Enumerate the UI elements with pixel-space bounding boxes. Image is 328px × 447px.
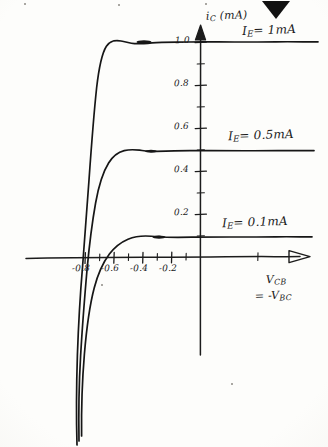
x-tick-label-minus-0-2: -0.2 xyxy=(159,264,177,273)
curve-label-value: = 0.5mA xyxy=(239,127,294,143)
y-axis-title: iC (mA) xyxy=(206,9,248,23)
y-tick-label-1-0: 1.0 xyxy=(175,36,190,45)
x-axis-title-line2: = -VBC xyxy=(255,289,292,303)
curve-label-ie-0-5ma: IE= 0.5mA xyxy=(228,128,294,144)
x-axis xyxy=(26,257,300,259)
x-tick-label-minus-0-8: -0.8 xyxy=(72,264,90,273)
curve-label-value: = 0.1mA xyxy=(233,214,288,230)
x-tick-label-minus-0-4: -0.4 xyxy=(130,264,148,273)
y-tick-label-0-4: 0.4 xyxy=(174,165,189,174)
curve-ie-1ma xyxy=(76,41,318,445)
x-axis-title-line1: VCB xyxy=(266,274,287,287)
x-axis-title-line2-subscript: BC xyxy=(279,293,292,302)
y-tick-label-0-8: 0.8 xyxy=(174,79,189,88)
curve-label-ie-1ma: IE= 1mA xyxy=(242,23,296,38)
y-tick-label-0-6: 0.6 xyxy=(174,122,189,131)
curve-label-ie-0-1ma: IE= 0.1mA xyxy=(222,215,288,231)
x-axis-title-subscript: CB xyxy=(274,277,287,286)
y-axis-arrowhead xyxy=(195,25,205,40)
y-tick-label-0-2: 0.2 xyxy=(174,208,189,217)
scanned-page: 1.0 0.8 0.6 0.4 0.2 -0.8 -0.6 -0.4 -0.2 … xyxy=(0,0,328,447)
curve-label-value: = 1mA xyxy=(253,22,296,37)
y-axis-title-unit: (mA) xyxy=(216,8,248,22)
x-tick-label-minus-0-6: -0.6 xyxy=(101,264,119,273)
pen-ink-blobs xyxy=(137,40,166,238)
x-axis-title-equality: = -V xyxy=(255,289,280,303)
